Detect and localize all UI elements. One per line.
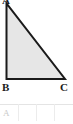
table-row: A (0, 105, 73, 122)
vertex-label-b: B (2, 82, 9, 93)
screenshot-root: A B C A (0, 0, 73, 124)
table-cell-2[interactable] (37, 105, 55, 122)
vertex-label-a: A (2, 0, 10, 6)
geometry-figure: A B C (0, 0, 73, 100)
table-cell-1[interactable] (18, 105, 36, 122)
triangle-polygon (7, 4, 66, 80)
grid-table: A (0, 104, 73, 121)
table-cell-3[interactable] (55, 105, 73, 122)
grid-table-body: A (0, 105, 73, 122)
vertex-label-c: C (60, 82, 68, 93)
grid-table-area: A (0, 100, 73, 124)
table-cell-0[interactable]: A (0, 105, 18, 122)
